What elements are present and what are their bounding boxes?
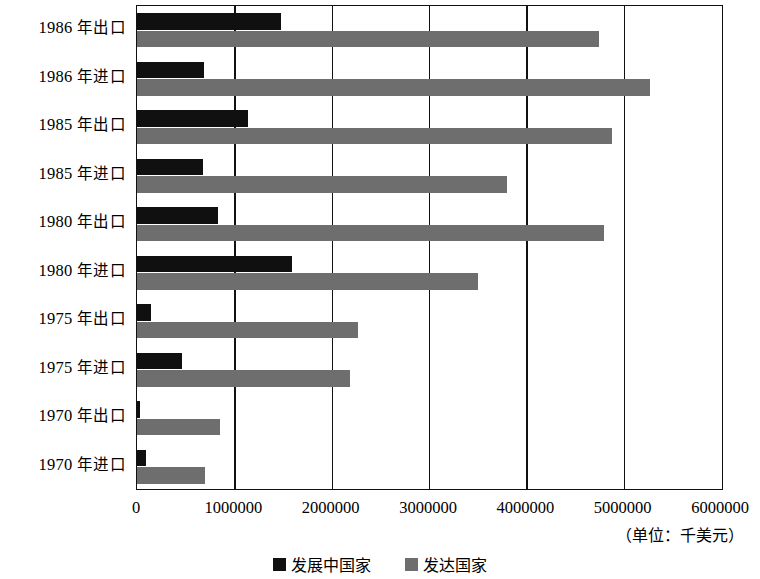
bar-adv-3: [137, 176, 507, 193]
bar-adv-9: [137, 467, 205, 484]
category-label-flow: 年进口: [77, 68, 126, 86]
category-label-year: 1970: [38, 455, 77, 474]
bar-dev-3: [137, 159, 203, 176]
legend-label: 发展中国家: [291, 552, 371, 576]
bar-adv-5: [137, 273, 478, 290]
category-label-6: 1975 年出口: [38, 311, 126, 328]
category-axis-labels: 1986 年出口1986 年进口1985 年出口1985 年进口1980 年出口…: [0, 5, 132, 490]
bar-dev-4: [137, 207, 218, 224]
category-label-year: 1985: [38, 115, 77, 134]
category-label-year: 1986: [38, 67, 77, 86]
x-tick-label-5: 5000000: [594, 498, 652, 518]
x-tick-label-0: 0: [132, 498, 140, 518]
x-tick-label-3: 3000000: [399, 498, 457, 518]
x-tick-label-6: 6000000: [691, 498, 749, 518]
bar-chart: 1986 年出口1986 年进口1985 年出口1985 年进口1980 年出口…: [0, 0, 760, 579]
plot-area: [136, 5, 723, 490]
legend-label: 发达国家: [423, 552, 487, 576]
category-label-5: 1980 年进口: [38, 263, 126, 280]
category-label-8: 1970 年出口: [38, 408, 126, 425]
bar-dev-5: [137, 256, 292, 273]
category-label-flow: 年进口: [77, 456, 126, 474]
category-label-4: 1980 年出口: [38, 214, 126, 231]
category-label-flow: 年进口: [77, 165, 126, 183]
category-label-flow: 年出口: [77, 213, 126, 231]
chart-legend: 发展中国家发达国家: [0, 552, 760, 576]
x-tick-label-4: 4000000: [496, 498, 554, 518]
category-label-7: 1975 年进口: [38, 360, 126, 377]
category-label-year: 1975: [38, 309, 77, 328]
bar-adv-8: [137, 419, 220, 436]
category-label-year: 1980: [38, 261, 77, 280]
category-label-flow: 年进口: [77, 262, 126, 280]
category-label-year: 1975: [38, 358, 77, 377]
category-label-2: 1985 年出口: [38, 117, 126, 134]
bar-dev-1: [137, 62, 204, 79]
category-label-1: 1986 年进口: [38, 69, 126, 86]
category-label-year: 1985: [38, 164, 77, 183]
bar-dev-7: [137, 353, 182, 370]
bar-adv-2: [137, 128, 612, 145]
x-tick-label-1: 1000000: [204, 498, 262, 518]
category-label-3: 1985 年进口: [38, 166, 126, 183]
category-label-year: 1980: [38, 212, 77, 231]
bar-adv-7: [137, 370, 350, 387]
category-label-flow: 年进口: [77, 359, 126, 377]
bar-adv-4: [137, 225, 604, 242]
bar-dev-0: [137, 13, 281, 30]
bar-adv-0: [137, 31, 599, 48]
legend-swatch-adv-icon: [405, 558, 418, 571]
category-label-year: 1970: [38, 406, 77, 425]
category-label-0: 1986 年出口: [38, 20, 126, 37]
category-label-9: 1970 年进口: [38, 457, 126, 474]
x-tick-label-2: 2000000: [302, 498, 360, 518]
category-label-year: 1986: [38, 18, 77, 37]
x-axis-tick-labels: 0100000020000003000000400000050000006000…: [0, 498, 760, 524]
category-label-flow: 年出口: [77, 19, 126, 37]
legend-swatch-dev-icon: [273, 558, 286, 571]
bar-dev-2: [137, 110, 248, 127]
category-label-flow: 年出口: [77, 116, 126, 134]
unit-note: （单位：千美元）: [616, 522, 744, 546]
bar-adv-6: [137, 322, 358, 339]
legend-item-1: 发达国家: [405, 552, 487, 576]
bar-dev-8: [137, 401, 140, 418]
legend-item-0: 发展中国家: [273, 552, 371, 576]
bar-dev-6: [137, 304, 151, 321]
bar-adv-1: [137, 79, 650, 96]
bar-dev-9: [137, 450, 146, 467]
category-label-flow: 年出口: [77, 310, 126, 328]
category-label-flow: 年出口: [77, 407, 126, 425]
